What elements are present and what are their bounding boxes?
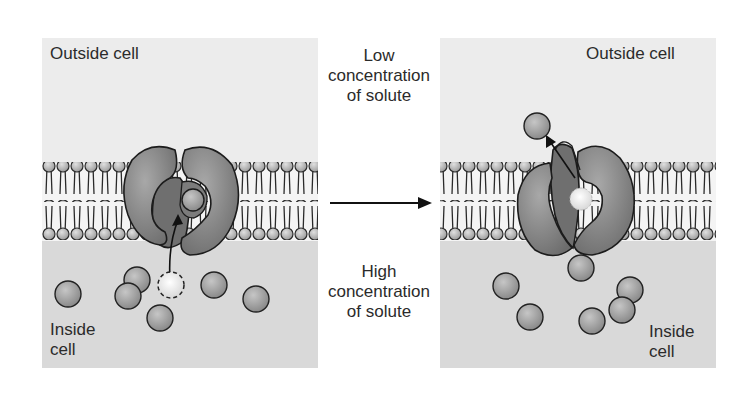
left-panel bbox=[42, 38, 318, 368]
right-inside-label-2: cell bbox=[649, 342, 675, 362]
high-label-line2: concentration bbox=[309, 282, 449, 302]
moving-solute bbox=[158, 272, 184, 298]
left-outside-label: Outside cell bbox=[50, 44, 139, 64]
left-inside-label-1: Inside bbox=[50, 320, 95, 340]
left-inside-label-2: cell bbox=[50, 340, 76, 360]
right-outside-label: Outside cell bbox=[586, 44, 675, 64]
high-label-line3: of solute bbox=[309, 302, 449, 322]
low-label-line2: concentration bbox=[309, 66, 449, 86]
inside-region bbox=[42, 241, 318, 368]
right-inside-label-1: Inside bbox=[649, 322, 694, 342]
transition-arrow-icon bbox=[330, 197, 432, 209]
high-concentration-label: High concentration of solute bbox=[309, 262, 449, 322]
low-label-line3: of solute bbox=[309, 86, 449, 106]
released-solute bbox=[524, 113, 550, 139]
low-concentration-label: Low concentration of solute bbox=[309, 46, 449, 106]
high-label-line1: High bbox=[309, 262, 449, 282]
low-label-line1: Low bbox=[309, 46, 449, 66]
right-panel bbox=[440, 38, 716, 368]
bound-solute bbox=[182, 189, 204, 211]
empty-binding-site bbox=[570, 188, 592, 210]
